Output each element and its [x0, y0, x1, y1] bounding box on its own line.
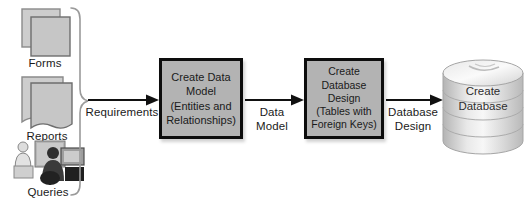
flow-diagram: Forms Reports Queries Requirements Creat… — [0, 0, 527, 207]
data-model-arrow-label: Data Model — [246, 105, 298, 133]
reports-icon — [20, 76, 74, 132]
step-create-database-design: Create Database Design (Tables with Fore… — [304, 58, 384, 139]
forms-label: Forms — [14, 56, 76, 70]
group-brace — [70, 7, 90, 197]
database-design-arrow-label: Database Design — [382, 105, 444, 133]
step-create-database-label: Create Database — [441, 84, 525, 114]
requirements-arrow-label: Requirements — [84, 105, 160, 119]
step-create-data-model: Create Data Model (Entities and Relation… — [159, 58, 243, 139]
forms-icon — [20, 8, 72, 58]
